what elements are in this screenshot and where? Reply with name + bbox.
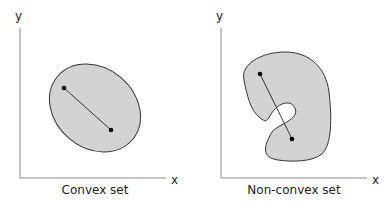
convex-y-label: y [15,10,22,22]
convex-point-b [109,128,114,133]
convex-x-label: x [171,174,178,186]
nonconvex-x-label: x [372,174,379,186]
diagram-canvas [0,0,392,204]
nonconvex-caption: Non-convex set [247,184,340,196]
convex-point-a [62,86,67,91]
nonconvex-point-b [290,137,295,142]
nonconvex-set-shape [244,52,331,161]
nonconvex-y-label: y [216,10,223,22]
convex-caption: Convex set [62,184,129,196]
convex-set-shape [32,46,158,170]
nonconvex-point-a [258,72,263,77]
